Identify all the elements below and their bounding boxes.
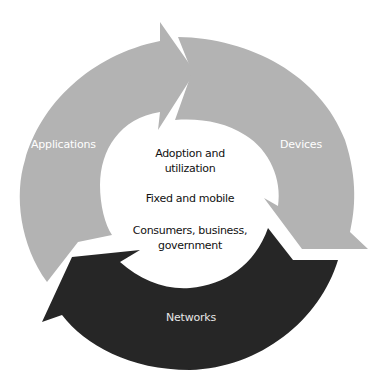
- center-text-fixed-mobile: Fixed and mobile: [130, 191, 250, 206]
- center-line-3: Fixed and mobile: [130, 191, 250, 206]
- devices-label: Devices: [280, 138, 322, 151]
- networks-label: Networks: [166, 311, 216, 324]
- center-text-adoption: Adoption and utilization: [130, 146, 250, 176]
- center-line-5: government: [120, 238, 260, 253]
- center-text-consumers: Consumers, business, government: [120, 223, 260, 253]
- center-line-2: utilization: [130, 161, 250, 176]
- applications-label: Applications: [31, 138, 96, 151]
- center-line-4: Consumers, business,: [120, 223, 260, 238]
- center-line-1: Adoption and: [130, 146, 250, 161]
- devices-arrow: [175, 37, 368, 249]
- cycle-diagram: Applications Devices Networks Adoption a…: [0, 0, 382, 378]
